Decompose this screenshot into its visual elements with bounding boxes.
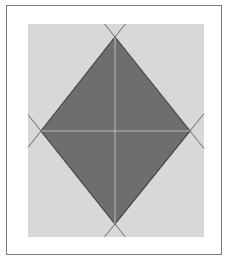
rhombus-diagram [0,0,227,262]
